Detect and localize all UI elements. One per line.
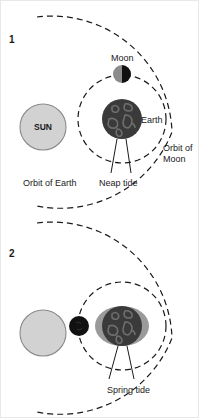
sun-body-panel-2 xyxy=(20,310,66,356)
earth-label-panel-1: Earth xyxy=(141,115,163,125)
neap-tide-leader-right-panel-1 xyxy=(126,139,131,173)
panel-2: Spring tide 2 xyxy=(9,222,172,414)
tides-diagram-svg: SUN Earth Moon xyxy=(1,1,199,418)
orbit-of-moon-label-line1-panel-1: Orbit of xyxy=(163,143,193,153)
earth-panel-1 xyxy=(102,99,142,139)
spring-tide-label-panel-2: Spring tide xyxy=(107,385,150,395)
sun-label-panel-1: SUN xyxy=(34,122,52,132)
orbit-of-moon-label-line2-panel-1: Moon xyxy=(163,154,186,164)
moon-label-panel-1: Moon xyxy=(111,53,134,63)
tides-diagram-figure: SUN Earth Moon xyxy=(0,0,199,418)
moon-lit-half-panel-1 xyxy=(113,65,122,83)
neap-tide-label-panel-1: Neap tide xyxy=(99,178,138,188)
spring-tide-leader-left-panel-2 xyxy=(109,346,118,379)
earth-panel-2 xyxy=(102,306,142,346)
moon-body-panel-2 xyxy=(69,316,89,336)
panel-number-1: 1 xyxy=(9,34,15,45)
panel-1: SUN Earth Moon xyxy=(9,16,193,208)
orbit-of-earth-label-panel-1: Orbit of Earth xyxy=(23,178,77,188)
moon-panel-1 xyxy=(113,65,131,83)
spring-tide-leader-right-panel-2 xyxy=(127,346,134,379)
neap-tide-leader-left-panel-1 xyxy=(111,139,117,173)
moon-dark-half-panel-1 xyxy=(122,65,131,83)
panel-number-2: 2 xyxy=(9,248,15,259)
